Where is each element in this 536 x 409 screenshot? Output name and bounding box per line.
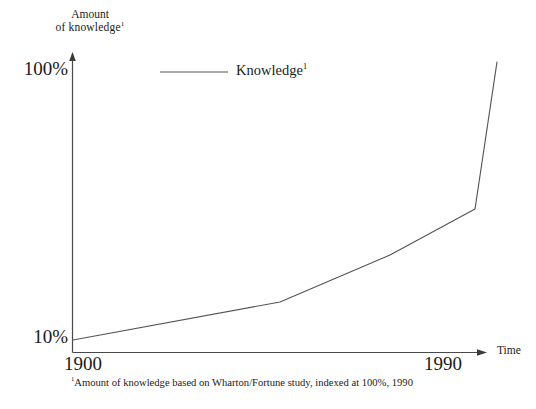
y-axis-tick-label-100: 100% xyxy=(12,58,68,79)
legend-footnote-marker: 1 xyxy=(303,61,308,71)
chart-footnote: 1Amount of knowledge based on Wharton/Fo… xyxy=(71,377,413,389)
knowledge-series-line xyxy=(73,62,497,340)
y-axis-arrow-icon xyxy=(69,52,76,61)
x-axis-tick-label-1900: 1900 xyxy=(64,353,102,374)
legend-label-text: Knowledge xyxy=(236,62,303,78)
x-axis-arrow-icon xyxy=(477,349,487,356)
y-axis-tick-label-10: 10% xyxy=(12,326,68,347)
y-axis-title-footnote-marker: 1 xyxy=(121,20,125,28)
x-axis-title: Time xyxy=(497,344,521,357)
x-axis-tick-label-1990: 1990 xyxy=(424,353,462,374)
y-axis-title-line1: Amount xyxy=(71,8,109,20)
footnote-text: Amount of knowledge based on Wharton/For… xyxy=(74,377,413,388)
y-axis-title: Amount of knowledge1 xyxy=(38,8,142,34)
legend-entry-knowledge: Knowledge1 xyxy=(236,62,307,78)
y-axis-title-line2: of knowledge1 xyxy=(38,21,142,34)
chart-page: Amount of knowledge1 100% 10% 1900 1990 … xyxy=(0,0,536,409)
